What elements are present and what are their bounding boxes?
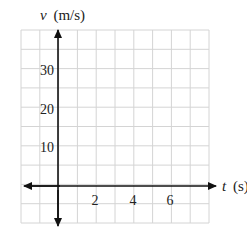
x-axis-label: t (s) bbox=[222, 178, 247, 195]
grid bbox=[21, 30, 209, 223]
y-tick-10: 10 bbox=[40, 140, 54, 155]
x-tick-4: 4 bbox=[130, 193, 137, 208]
chart-canvas: v (m/s) t (s) 30 20 10 2 4 6 bbox=[0, 0, 247, 237]
y-axis-label: v (m/s) bbox=[40, 7, 85, 24]
y-tick-30: 30 bbox=[40, 63, 54, 78]
x-tick-2: 2 bbox=[92, 193, 99, 208]
x-tick-6: 6 bbox=[167, 193, 174, 208]
y-tick-20: 20 bbox=[40, 102, 54, 117]
